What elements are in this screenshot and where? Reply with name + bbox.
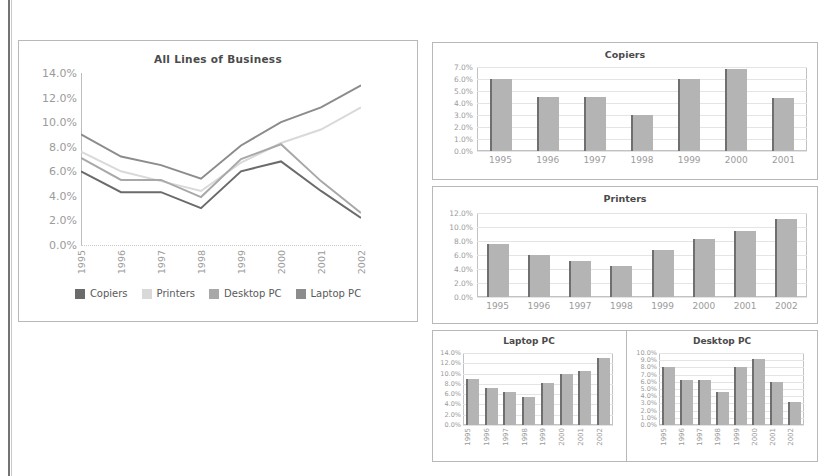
x-axis-tick: 1995 xyxy=(489,155,512,165)
y-axis-tick: 8.0% xyxy=(454,237,473,246)
x-axis-line xyxy=(81,245,361,246)
gridline xyxy=(659,360,804,361)
y-axis-tick: 10.0% xyxy=(440,370,461,378)
x-axis-tick: 2000 xyxy=(558,428,566,446)
y-axis-tick: 0.0% xyxy=(444,421,461,429)
page-left-edge xyxy=(8,0,10,476)
plot-area-copiers: 0.0%1.0%2.0%3.0%4.0%5.0%6.0%7.0%19951996… xyxy=(477,67,807,151)
gridline xyxy=(463,425,613,426)
x-axis-tick: 2001 xyxy=(577,428,585,446)
plot-area-all-lines-of-business: 0.0%2.0%4.0%6.0%8.0%10.0%12.0%14.0%19951… xyxy=(81,73,361,245)
x-axis-tick: 2001 xyxy=(316,250,327,274)
bar-edge xyxy=(466,379,468,425)
y-axis-tick: 6.0% xyxy=(454,75,473,84)
x-axis-tick: 1996 xyxy=(536,155,559,165)
legend-all-lines-of-business: CopiersPrintersDesktop PCLaptop PC xyxy=(19,288,417,299)
legend-label: Laptop PC xyxy=(311,288,362,299)
bar xyxy=(485,388,498,425)
gridline xyxy=(659,353,804,354)
x-axis-tick: 1997 xyxy=(696,428,704,446)
gridline xyxy=(463,363,613,364)
y-axis-tick: 2.0% xyxy=(444,411,461,419)
bar-edge xyxy=(503,392,505,425)
bar-edge xyxy=(772,98,774,151)
gridline xyxy=(659,425,804,426)
y-axis-tick: 10.0% xyxy=(449,223,473,232)
line-series-copiers xyxy=(81,161,361,218)
chart-panel-copiers: Copiers 0.0%1.0%2.0%3.0%4.0%5.0%6.0%7.0%… xyxy=(432,42,818,180)
y-axis-tick: 12.0% xyxy=(449,209,473,218)
gridline xyxy=(477,213,807,214)
y-axis-tick: 4.0% xyxy=(454,265,473,274)
y-axis-tick: 14.0% xyxy=(42,67,77,80)
y-axis-tick: 14.0% xyxy=(440,349,461,357)
y-axis-tick: 1.0% xyxy=(454,135,473,144)
legend-label: Copiers xyxy=(90,288,128,299)
bar-edge xyxy=(487,244,489,297)
bar-edge xyxy=(569,261,571,297)
bar xyxy=(788,402,801,425)
bar xyxy=(560,374,573,425)
bar-edge xyxy=(490,79,492,151)
bar-edge xyxy=(528,255,530,297)
line-series-laptop-pc xyxy=(81,85,361,178)
bar xyxy=(490,79,512,151)
bar xyxy=(528,255,550,297)
bar-edge xyxy=(560,374,562,425)
x-axis-tick: 1996 xyxy=(116,250,127,274)
y-axis-tick: 3.0% xyxy=(640,399,657,407)
y-axis-tick: 4.0% xyxy=(444,400,461,408)
bar-edge xyxy=(770,382,772,425)
y-axis-tick: 2.0% xyxy=(640,407,657,415)
y-axis-tick: 9.0% xyxy=(640,356,657,364)
x-axis-tick: 1998 xyxy=(631,155,654,165)
legend-label: Printers xyxy=(157,288,195,299)
bar xyxy=(680,380,693,425)
x-axis-tick: 1997 xyxy=(502,428,510,446)
chart-title-desktop-pc: Desktop PC xyxy=(627,336,817,346)
bar-edge xyxy=(597,358,599,425)
x-axis-tick: 1999 xyxy=(236,250,247,274)
bar-edge xyxy=(680,380,682,425)
line-series-group xyxy=(81,73,361,245)
y-axis-tick: 4.0% xyxy=(454,99,473,108)
y-axis-tick: 6.0% xyxy=(640,378,657,386)
x-axis-tick: 2001 xyxy=(734,301,757,311)
legend-label: Desktop PC xyxy=(224,288,281,299)
bar-edge xyxy=(652,250,654,297)
x-axis-tick: 1999 xyxy=(539,428,547,446)
y-axis-tick: 6.0% xyxy=(49,165,77,178)
y-axis-tick: 0.0% xyxy=(454,293,473,302)
page-left-edge-shadow xyxy=(11,0,12,476)
x-axis-tick: 1997 xyxy=(569,301,592,311)
x-axis-tick: 1999 xyxy=(678,155,701,165)
legend-swatch xyxy=(296,289,306,299)
bar-edge xyxy=(698,380,700,425)
legend-swatch xyxy=(75,289,85,299)
legend-item-printers: Printers xyxy=(142,288,195,299)
x-axis-tick: 1995 xyxy=(660,428,668,446)
gridline xyxy=(477,103,807,104)
chart-panel-printers: Printers 0.0%2.0%4.0%6.0%8.0%10.0%12.0%1… xyxy=(432,186,818,324)
bar-edge xyxy=(788,402,790,425)
x-axis-tick: 1998 xyxy=(610,301,633,311)
bar-edge xyxy=(734,231,736,297)
y-axis-tick: 7.0% xyxy=(640,371,657,379)
gridline xyxy=(477,151,807,152)
line-series-desktop-pc xyxy=(81,144,361,213)
legend-item-desktop-pc: Desktop PC xyxy=(209,288,281,299)
y-axis-tick: 10.0% xyxy=(636,349,657,357)
gridline xyxy=(477,269,807,270)
gridline xyxy=(477,255,807,256)
bar xyxy=(610,266,632,297)
y-axis-tick: 4.0% xyxy=(640,392,657,400)
bar-edge xyxy=(725,69,727,151)
y-axis-tick: 4.0% xyxy=(49,189,77,202)
bar-edge xyxy=(485,388,487,425)
y-axis-tick: 12.0% xyxy=(440,359,461,367)
x-axis-tick: 1998 xyxy=(196,250,207,274)
gridline xyxy=(463,353,613,354)
bar xyxy=(584,97,606,151)
bar xyxy=(734,367,747,425)
gridline xyxy=(477,67,807,68)
